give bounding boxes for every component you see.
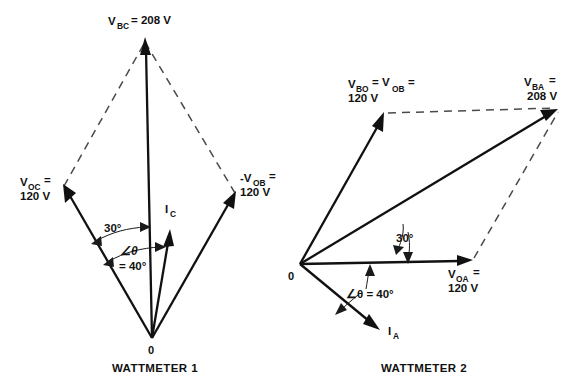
label-vbo-sub2: OB	[392, 84, 405, 94]
figure-background	[0, 0, 581, 389]
label-minus-vob-main: -V	[240, 172, 252, 184]
label-ic-sub: C	[170, 209, 176, 219]
phasor-diagram-figure: V BC = 208 V V OC = 120 V -V OB = 120 V …	[0, 0, 581, 389]
label-voa-value: 120 V	[448, 282, 478, 294]
angle-theta-label-w1: ∠θ	[120, 244, 138, 258]
label-minus-vob-value: 120 V	[240, 186, 270, 198]
label-voa-main: V	[448, 268, 456, 280]
label-voc-value: 120 V	[20, 190, 50, 202]
angle-30-label-w1: 30°	[104, 222, 122, 234]
label-vba-main: V	[524, 76, 532, 88]
label-vbc-main: V	[108, 15, 116, 27]
label-voa-tail: =	[473, 266, 480, 278]
angle-30-label-w2: 30°	[396, 232, 414, 244]
label-vba-tail: =	[549, 74, 556, 86]
label-voc-tail: =	[44, 174, 51, 186]
origin-label-w1: 0	[148, 344, 154, 356]
label-vbo-mid: = V	[372, 76, 390, 88]
label-minus-vob-tail: =	[269, 170, 276, 182]
origin-label-w2: 0	[288, 270, 294, 282]
angle-theta-value-w1: = 40°	[119, 260, 147, 272]
label-vbc-tail: = 208 V	[131, 14, 171, 26]
label-ia-main: I	[388, 325, 391, 337]
label-ic-main: I	[165, 203, 168, 215]
label-ia-sub: A	[393, 331, 399, 341]
label-vbo-value: 120 V	[348, 92, 378, 104]
caption-wattmeter-2: WATTMETER 2	[381, 362, 467, 374]
label-vbo-tail: =	[408, 76, 415, 88]
angle-theta-label-w2: ∠θ = 40°	[346, 288, 394, 300]
phasor-diagram-canvas: V BC = 208 V V OC = 120 V -V OB = 120 V …	[0, 0, 581, 389]
label-voc-main: V	[20, 176, 28, 188]
label-vbc-sub: BC	[117, 21, 129, 31]
label-vbo-main: V	[348, 78, 356, 90]
caption-wattmeter-1: WATTMETER 1	[112, 362, 198, 374]
label-vba-value: 208 V	[527, 90, 557, 102]
